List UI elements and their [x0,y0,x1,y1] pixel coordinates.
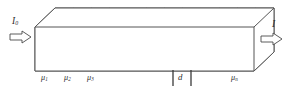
slab-outline-group [35,8,274,71]
mu2-subscript: 2 [68,76,71,82]
arrow-right-hollow-icon-incident [10,31,31,43]
mu1-subscript: 1 [45,76,48,82]
layer-thickness-label: d [178,73,182,82]
mu3-label: μ3 [87,74,94,82]
transmitted-intensity-label: I [272,20,275,30]
slab-outline [35,8,274,71]
incident-intensity-label: I0 [12,17,18,27]
incident-intensity-subscript: 0 [15,20,18,26]
mun-subscript: n [235,76,238,82]
mu1-label: μ1 [41,74,48,82]
mu3-subscript: 3 [91,76,94,82]
mun-label: μn [231,74,238,82]
layered-slab-figure: I0 I μ1 μ2 μ3 μn d [0,0,293,94]
mu2-label: μ2 [64,74,71,82]
